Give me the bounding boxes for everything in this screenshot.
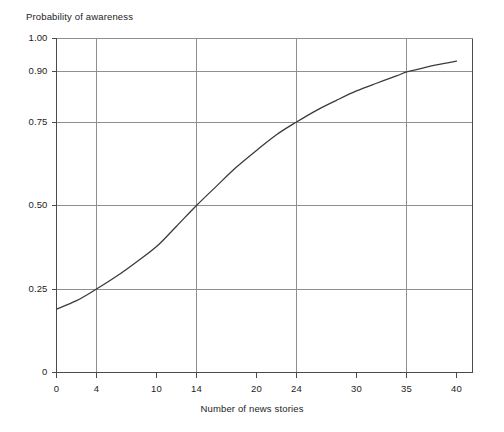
x-axis-tick-label: 30 <box>337 383 377 394</box>
probability-curve <box>57 61 457 309</box>
plot-area <box>0 0 504 432</box>
y-axis-tick-label: 0.90 <box>0 65 48 76</box>
y-axis-tick-label: 0 <box>0 366 48 377</box>
x-axis-tick-label: 40 <box>437 383 477 394</box>
axis-ticks <box>52 39 457 378</box>
y-axis-tick-label: 0.25 <box>0 283 48 294</box>
x-axis-tick-label: 10 <box>137 383 177 394</box>
x-axis-tick-label: 0 <box>37 383 77 394</box>
x-axis-tick-label: 35 <box>387 383 427 394</box>
chart-container: Probability of awareness 00.250.500.750.… <box>0 0 504 432</box>
x-axis-tick-label: 24 <box>277 383 317 394</box>
y-axis-tick-label: 0.50 <box>0 199 48 210</box>
y-axis-tick-label: 0.75 <box>0 116 48 127</box>
x-axis-tick-label: 4 <box>77 383 117 394</box>
x-axis-tick-label: 20 <box>237 383 277 394</box>
x-axis-title: Number of news stories <box>0 403 504 414</box>
y-axis-tick-label: 1.00 <box>0 32 48 43</box>
gridlines <box>57 39 473 373</box>
x-axis-tick-label: 14 <box>177 383 217 394</box>
data-series <box>57 61 457 309</box>
